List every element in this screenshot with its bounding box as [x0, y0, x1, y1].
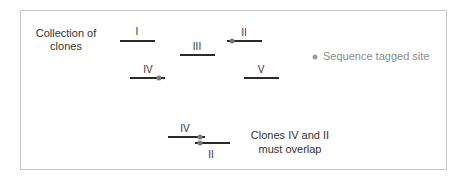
- overlap-caption-line2: must overlap: [259, 143, 322, 156]
- clone-v-line: [244, 77, 279, 79]
- legend-label: Sequence tagged site: [323, 50, 429, 63]
- clone-iii-line: [180, 54, 215, 56]
- collection-title-line2: clones: [50, 40, 82, 53]
- sts-dot-icon: [198, 141, 203, 146]
- clone-iv-label: IV: [143, 63, 152, 76]
- sts-dot-icon: [198, 135, 203, 140]
- clone-ii-label: II: [241, 26, 247, 39]
- clone-v-label: V: [258, 63, 265, 76]
- collection-title-line1: Collection of: [36, 27, 97, 40]
- sts-dot-icon: [157, 76, 162, 81]
- clone-i-line: [120, 40, 155, 42]
- sts-dot-icon: [230, 39, 235, 44]
- overlap-clone-ii-label: II: [208, 148, 214, 161]
- clone-i-label: I: [136, 25, 139, 38]
- overlap-caption-line1: Clones IV and II: [251, 129, 329, 142]
- legend-dot-icon: [313, 55, 318, 60]
- overlap-clone-iv-label: IV: [180, 122, 189, 135]
- clone-iii-label: III: [193, 40, 201, 53]
